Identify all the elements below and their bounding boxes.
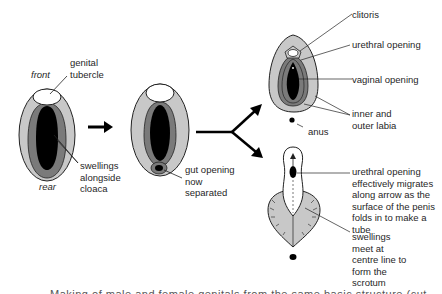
stage-undifferentiated (19, 76, 78, 181)
label-genital-tubercle: genital tubercle (70, 57, 104, 80)
label-line: separated (185, 187, 235, 199)
stage-female (269, 14, 352, 127)
label-clitoris: clitoris (352, 9, 379, 21)
label-labia: inner and outer labia (352, 108, 396, 131)
label-line: form the (352, 266, 406, 278)
label-line: alongside (80, 172, 121, 184)
label-line: meet at (352, 243, 406, 255)
label-gut-opening: gut opening now separated (185, 164, 235, 199)
arrow-right-icon (88, 121, 113, 133)
label-line: now (185, 176, 235, 188)
label-line: urethral opening (352, 166, 435, 178)
label-urethral-migrates: urethral opening effectively migrates al… (352, 166, 435, 235)
label-front: front (31, 69, 50, 81)
label-rear: rear (39, 181, 56, 193)
label-line: outer labia (352, 120, 396, 132)
caption-cutoff: Making of male and female genitals from … (0, 287, 442, 294)
label-line: cloaca (80, 183, 121, 195)
label-line: gut opening (185, 164, 235, 176)
label-urethral-opening: urethral opening (352, 39, 421, 51)
label-line: inner and (352, 108, 396, 120)
label-anus: anus (308, 126, 329, 138)
stage-separated (131, 84, 189, 178)
label-line: effectively migrates (352, 178, 435, 190)
label-scrotum: swellings meet at centre line to form th… (352, 231, 406, 289)
label-vaginal-opening: vaginal opening (352, 74, 419, 86)
label-line: swellings (352, 231, 406, 243)
label-line: surface of the penis (352, 201, 435, 213)
branch-arrow-icon (196, 104, 263, 158)
stage-male (268, 147, 350, 260)
label-line: centre line to (352, 254, 406, 266)
label-line: swellings (80, 160, 121, 172)
caption-text: Making of male and female genitals from … (50, 287, 442, 294)
label-line: folds in to make a (352, 212, 435, 224)
label-line: tubercle (70, 69, 104, 81)
label-line: along arrow as the (352, 189, 435, 201)
label-line: genital (70, 57, 104, 69)
label-swellings-cloaca: swellings alongside cloaca (80, 160, 121, 195)
